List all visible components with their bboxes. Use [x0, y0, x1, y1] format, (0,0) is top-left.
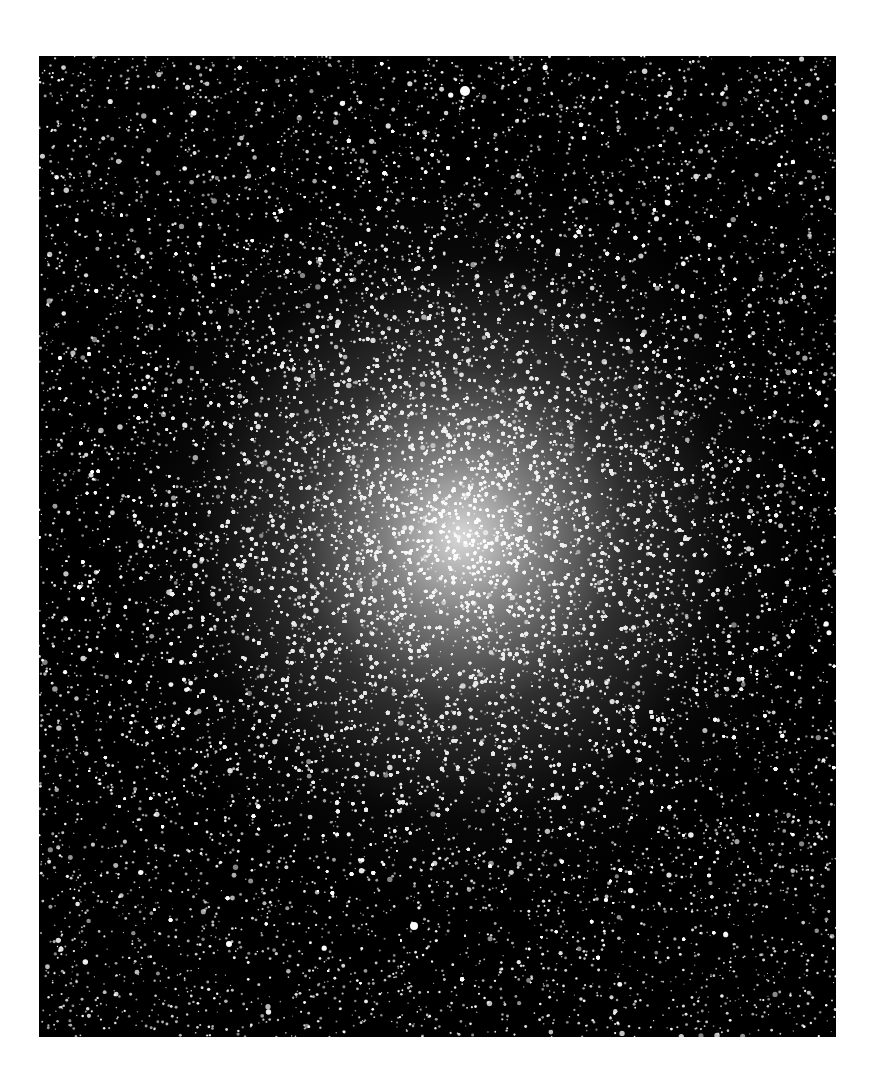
star-cluster-photo	[39, 56, 836, 1037]
cluster-core-glow	[39, 56, 836, 1037]
